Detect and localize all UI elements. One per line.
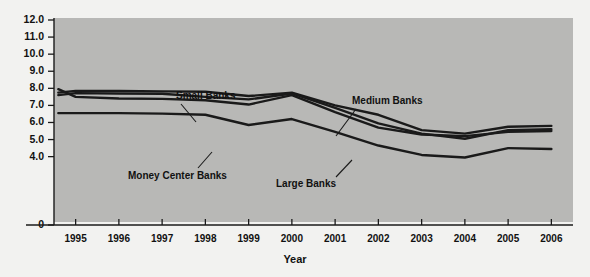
series-label: Large Banks [276,178,336,189]
chart-canvas: Gross Interest Income (as % of Assets) Y… [0,0,590,277]
plot-area [0,0,590,277]
series-label: Small Banks [176,90,235,101]
series-label: Medium Banks [352,95,423,106]
series-label: Money Center Banks [128,170,227,181]
chart-figure: Gross Interest Income (as % of Assets) Y… [0,0,590,277]
plot-background [54,18,573,222]
